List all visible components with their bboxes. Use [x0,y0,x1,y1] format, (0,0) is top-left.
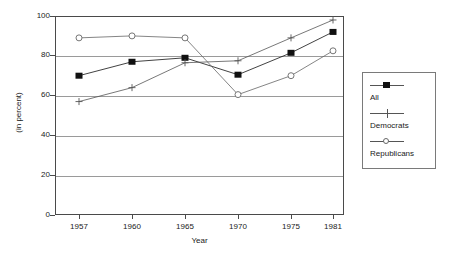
x-tick-label-1970: 1970 [218,222,258,231]
x-tick-mark-1975 [291,215,292,219]
legend-marker-open-circle-icon [370,137,404,146]
x-tick-label-1965: 1965 [165,222,205,231]
y-tick-mark-60 [50,95,55,96]
y-tick-mark-20 [50,175,55,176]
x-tick-label-1957: 1957 [59,222,99,231]
y-axis-title: (in percent) [14,78,23,148]
x-tick-mark-1960 [132,215,133,219]
y-tick-mark-100 [50,16,55,17]
y-tick-label-0: 0 [0,211,50,219]
x-tick-label-1981: 1981 [313,222,353,231]
legend-label-republicans: Republicans [370,149,414,159]
y-tick-mark-80 [50,55,55,56]
y-tick-mark-40 [50,135,55,136]
chart-figure: 100 80 60 40 20 0 (in percent) 1957 1960… [0,0,450,254]
x-tick-mark-1981 [333,215,334,219]
gridline-60 [56,96,343,97]
y-tick-label-100: 100 [0,12,50,20]
x-tick-mark-1965 [185,215,186,219]
legend-marker-filled-square-icon [370,81,404,90]
x-tick-label-1975: 1975 [271,222,311,231]
y-tick-label-80: 80 [0,51,50,59]
legend-label-democrats: Democrats [370,121,409,131]
legend-marker-plus-icon [370,109,404,118]
y-tick-label-20: 20 [0,171,50,179]
legend-label-all: All [370,93,379,103]
plot-area [55,16,344,215]
y-tick-label-40: 40 [0,131,50,139]
x-tick-label-1960: 1960 [112,222,152,231]
y-tick-label-60: 60 [0,91,50,99]
x-tick-mark-1970 [238,215,239,219]
chart-legend: All Democrats Republicans [362,72,436,169]
x-tick-mark-1957 [79,215,80,219]
y-tick-mark-0 [50,215,55,216]
gridline-40 [56,136,343,137]
gridline-20 [56,176,343,177]
gridline-80 [56,56,343,57]
x-axis-title: Year [55,236,344,245]
